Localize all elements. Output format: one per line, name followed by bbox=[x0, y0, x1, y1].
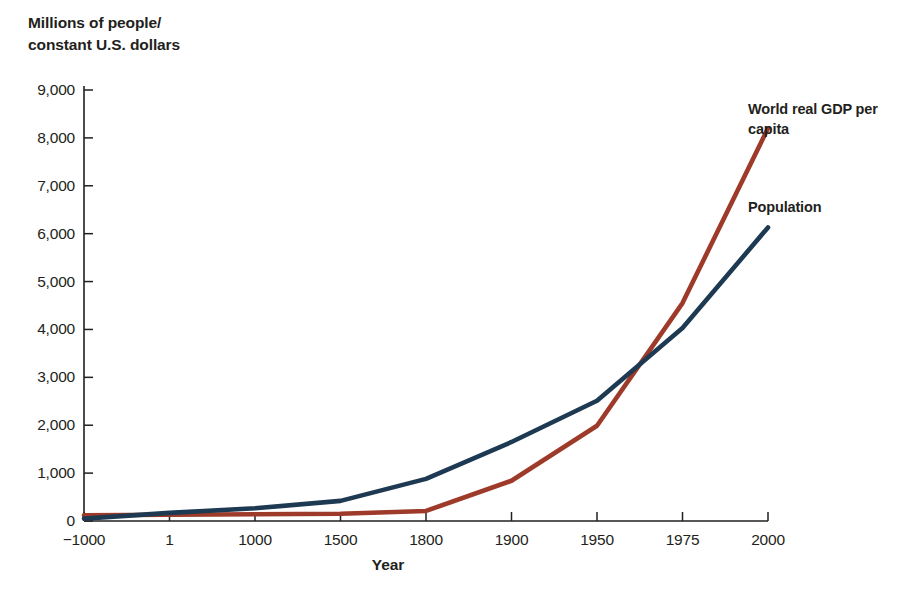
y-axis-tick-label: 1,000 bbox=[37, 465, 75, 481]
y-axis-tick-label: 6,000 bbox=[37, 226, 75, 242]
y-axis-tick-label: 4,000 bbox=[37, 321, 75, 337]
plot-area bbox=[0, 0, 924, 589]
x-axis-title: Year bbox=[0, 556, 924, 574]
y-axis-tick-label: 9,000 bbox=[37, 82, 75, 98]
series-line bbox=[84, 128, 768, 515]
y-axis-tick-label: 8,000 bbox=[37, 130, 75, 146]
y-axis-tick-label: 3,000 bbox=[37, 369, 75, 385]
y-axis-tick-label: 2,000 bbox=[37, 417, 75, 433]
y-axis-tick-label: 7,000 bbox=[37, 178, 75, 194]
series-lines bbox=[84, 128, 768, 518]
series-label-world-real-gdp-per-capita: World real GDP per capita bbox=[748, 100, 918, 139]
x-axis-title-text: Year bbox=[372, 556, 404, 573]
y-axis-ticks bbox=[84, 90, 93, 521]
y-axis-tick-label: 0 bbox=[67, 513, 75, 529]
x-axis-tick-label: 2000 bbox=[708, 532, 828, 548]
chart-figure: Millions of people/ constant U.S. dollar… bbox=[0, 0, 924, 589]
axis-lines bbox=[84, 86, 768, 521]
y-axis-tick-label: 5,000 bbox=[37, 274, 75, 290]
series-line bbox=[84, 227, 768, 518]
series-label-population: Population bbox=[748, 198, 918, 218]
